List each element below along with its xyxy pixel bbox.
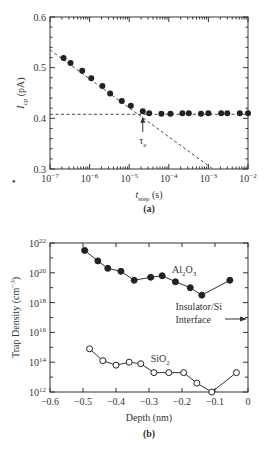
figure: 10−710−610−510−410−310−20.30.40.50.6tste… — [0, 0, 264, 453]
data-point — [61, 55, 67, 61]
data-point — [140, 108, 146, 114]
data-point — [99, 83, 105, 89]
x-tick-label: −0.1 — [206, 396, 224, 407]
al2o3-point — [105, 265, 111, 271]
interface-label-line2: Interface — [175, 314, 211, 325]
data-point — [179, 110, 185, 116]
sio2-point — [194, 380, 200, 386]
stray-dot: • — [12, 176, 16, 187]
al2o3-point — [118, 268, 124, 274]
sio2-point — [151, 370, 157, 376]
y-axis-title: Icp (pA) — [15, 77, 29, 109]
data-point — [186, 110, 192, 116]
x-tick-label: 10−3 — [200, 172, 218, 184]
y-axis-title: Trap Density (cm−3) — [9, 277, 22, 358]
plot-frame — [50, 17, 248, 169]
y-tick-label: 1020 — [29, 267, 47, 279]
al2o3-line — [85, 250, 230, 295]
x-axis-title: tstep (s) — [135, 189, 162, 203]
al2o3-point — [227, 277, 233, 283]
al2o3-point — [159, 273, 165, 279]
sio2-point — [87, 346, 93, 352]
logarithmic-fit-line — [50, 50, 213, 169]
data-point — [224, 110, 230, 116]
panel-label-b: (b) — [143, 428, 155, 440]
sio2-point — [209, 389, 215, 395]
sio2-point — [113, 362, 119, 368]
y-tick-label: 1014 — [29, 356, 47, 368]
x-tick-label: 10−5 — [120, 172, 138, 184]
data-point — [68, 60, 74, 66]
al2o3-point — [187, 285, 193, 291]
x-tick-label: 10−2 — [239, 172, 257, 184]
al2o3-point — [148, 274, 154, 280]
sio2-point — [233, 370, 239, 376]
sio2-point — [126, 359, 132, 365]
panel-label-a: (a) — [143, 203, 155, 215]
interface-label-line1: Insulator/Si — [175, 301, 222, 312]
data-point — [128, 103, 134, 109]
x-tick-label: −0.2 — [173, 396, 191, 407]
y-tick-label: 1016 — [29, 326, 47, 338]
data-point — [218, 110, 224, 116]
al2o3-point — [95, 258, 101, 264]
data-point — [79, 68, 85, 74]
x-tick-label: −0.5 — [74, 396, 92, 407]
al2o3-label: Al2O3 — [172, 264, 197, 278]
al2o3-point — [131, 277, 137, 283]
y-tick-label: 0.6 — [34, 12, 47, 23]
sio2-point — [181, 370, 187, 376]
data-point — [119, 98, 125, 104]
data-point — [107, 91, 113, 97]
data-point — [88, 75, 94, 81]
x-tick-label: 0 — [246, 396, 251, 407]
y-tick-label: 0.5 — [34, 62, 47, 73]
tau-arrow-head — [140, 117, 145, 123]
data-point — [146, 110, 152, 116]
chart-a-icp-vs-tstep: 10−710−610−510−410−310−20.30.40.50.6tste… — [15, 12, 257, 216]
y-tick-label: 0.3 — [34, 164, 47, 175]
data-point — [198, 111, 204, 117]
sio2-label: SiO2 — [151, 353, 171, 367]
x-tick-label: −0.6 — [41, 396, 59, 407]
x-tick-label: 10−4 — [160, 172, 178, 184]
al2o3-point — [199, 292, 205, 298]
data-point — [167, 111, 173, 117]
chart-b-trap-density-vs-depth: −0.6−0.5−0.4−0.3−0.2−0.10101210141016101… — [9, 237, 251, 440]
tau-e-label: τe — [139, 135, 146, 149]
data-point — [158, 111, 164, 117]
al2o3-point — [82, 247, 88, 253]
x-axis-title: Depth (nm) — [126, 412, 172, 424]
x-tick-label: −0.3 — [140, 396, 158, 407]
y-tick-label: 1022 — [29, 237, 47, 249]
y-tick-label: 0.4 — [34, 113, 47, 124]
sio2-point — [166, 370, 172, 376]
data-point — [245, 110, 251, 116]
sio2-point — [138, 361, 144, 367]
y-tick-label: 1018 — [29, 297, 47, 309]
x-tick-label: 10−6 — [81, 172, 99, 184]
data-point — [237, 110, 243, 116]
x-tick-label: −0.4 — [107, 396, 125, 407]
al2o3-point — [172, 279, 178, 285]
data-point — [205, 110, 211, 116]
sio2-point — [100, 358, 106, 364]
